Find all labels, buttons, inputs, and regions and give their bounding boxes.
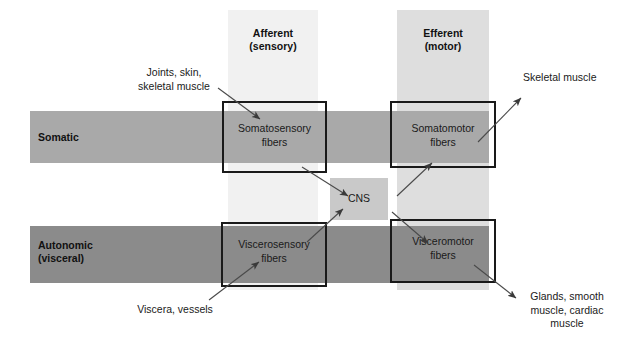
fiber-label-somatomotor: Somatomotor fibers — [390, 122, 496, 149]
column-label-afferent: Afferent (sensory) — [228, 27, 318, 53]
column-label-efferent: Efferent (motor) — [397, 27, 489, 53]
annotation-glands-smooth-muscle-cardiac-muscle: Glands, smooth muscle, cardiac muscle — [519, 290, 615, 331]
annotation-joints-skin-skeletal-muscle: Joints, skin, skeletal muscle — [126, 66, 222, 93]
bar-label-somatic: Somatic — [38, 131, 79, 144]
annotation-skeletal-muscle: Skeletal muscle — [523, 71, 615, 85]
cns-label: CNS — [330, 192, 388, 205]
fiber-label-viscerosensory: Viscerosensory fibers — [221, 238, 327, 265]
fiber-label-somatosensory: Somatosensory fibers — [222, 122, 327, 149]
annotation-viscera-vessels: Viscera, vessels — [126, 303, 224, 317]
diagram-canvas: Afferent (sensory) Efferent (motor) Soma… — [0, 0, 621, 342]
bar-label-autonomic: Autonomic (visceral) — [38, 239, 93, 265]
fiber-label-visceromotor: Visceromotor fibers — [390, 235, 496, 262]
